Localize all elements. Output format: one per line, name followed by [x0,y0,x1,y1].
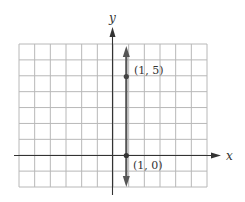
point-1-5: (1, 5) [124,64,164,80]
point-label: (1, 5) [134,64,164,77]
y-axis-arrow-icon [110,27,116,37]
x-axis-arrow-icon [211,153,221,159]
y-axis: y [108,11,116,195]
point-label: (1, 0) [133,159,163,172]
coordinate-graph: x y (1, 5) (1, 0) [0,0,245,202]
x-axis-label: x [226,149,233,163]
x-axis: x [14,149,233,163]
y-axis-label: y [108,11,116,25]
